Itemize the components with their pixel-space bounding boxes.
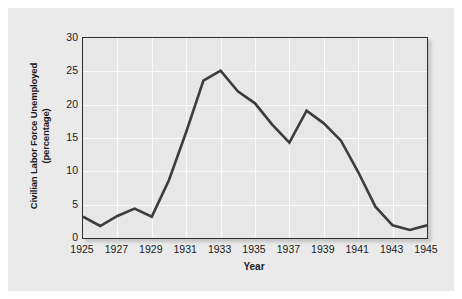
plot-inner xyxy=(83,38,427,238)
x-axis-title: Year xyxy=(82,261,426,272)
x-axis-tick-labels: 1925192719291931193319351937193919411943… xyxy=(82,243,426,257)
unemployment-line-series xyxy=(83,38,427,238)
y-axis-title-line1: Civilian Labor Force Unemployed xyxy=(28,63,39,209)
y-tick-label: 30 xyxy=(50,32,78,42)
plot-area xyxy=(82,37,428,239)
x-tick-label: 1945 xyxy=(406,243,446,255)
y-tick-label: 10 xyxy=(50,165,78,175)
y-tick-label: 5 xyxy=(50,199,78,209)
chart-figure: Civilian Labor Force Unemployed (percent… xyxy=(0,0,462,299)
y-tick-label: 0 xyxy=(50,232,78,242)
y-tick-label: 25 xyxy=(50,65,78,75)
y-tick-label: 20 xyxy=(50,99,78,109)
y-tick-label: 15 xyxy=(50,132,78,142)
series-polyline xyxy=(83,71,427,230)
